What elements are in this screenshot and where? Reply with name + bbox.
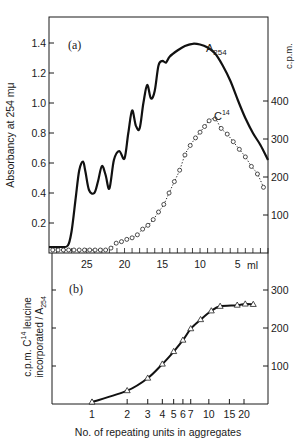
- y-tick-label-right-a: 300: [271, 133, 289, 145]
- c14-circle-marker: [207, 119, 211, 123]
- c14-circle-marker: [151, 218, 155, 222]
- c14-circle-marker: [198, 130, 202, 134]
- x-tick-label-b: 1: [89, 408, 95, 420]
- y-tick-label-right-a: 400: [271, 95, 289, 107]
- x-tick-label-b: 2: [124, 408, 130, 420]
- y-tick-label-right-b: 300: [271, 284, 289, 296]
- x-tick-label-b: 4: [159, 408, 165, 420]
- figure: 0.20.40.60.81.01.21.4 100200300400 25201…: [0, 0, 306, 447]
- x-tick-label-a: 20: [119, 258, 131, 270]
- y-tick-label-left-a: 1.2: [31, 67, 46, 79]
- ylabel-b2-sub: 254: [40, 296, 47, 308]
- x-tick-label-b: 20: [238, 408, 250, 420]
- x-tick-label-b: 10: [203, 408, 215, 420]
- c14-circle-marker: [178, 168, 182, 172]
- y-tick-label-left-a: 0.2: [31, 217, 46, 229]
- x-tick-label-a: 15: [156, 258, 168, 270]
- panel-label-a: (a): [68, 38, 81, 52]
- c14-circle-marker: [261, 185, 265, 189]
- c14-circle-marker: [77, 248, 81, 252]
- c14-circle-marker: [104, 248, 108, 252]
- c14-circle-marker: [243, 155, 247, 159]
- ylabel-b-sup: 14: [20, 332, 27, 340]
- x-axis-unit-label-a: ml: [247, 259, 258, 271]
- c14-markers: [51, 117, 266, 252]
- c14-circle-marker: [98, 248, 102, 252]
- x-tick-label-b: 5: [171, 408, 177, 420]
- x-tick-label-a: 10: [194, 258, 206, 270]
- c14-dotted-line: [53, 118, 264, 250]
- panel-label-b: (b): [69, 282, 83, 296]
- c14-circle-marker: [125, 237, 129, 241]
- c14-circle-marker: [146, 223, 150, 227]
- c14-circle-marker: [72, 248, 76, 252]
- c14-circle-marker: [225, 132, 229, 136]
- y-tick-label-left-a: 1.4: [31, 37, 46, 49]
- y-tick-label-left-a: 1.0: [31, 97, 46, 109]
- y-axis-label-right-a: c.p.m.: [283, 43, 294, 69]
- c14-circle-marker: [255, 172, 259, 176]
- c14-circle-marker: [82, 248, 86, 252]
- ylabel-b-prefix: c.p.m. C: [22, 340, 33, 377]
- c14-circle-marker: [162, 202, 166, 206]
- c14-circle-marker: [67, 248, 71, 252]
- y-axis-label-left-a: Absorbancy at 254 mμ: [4, 82, 16, 187]
- c14-circle-marker: [88, 248, 92, 252]
- y-tick-label-left-a: 0.6: [31, 157, 46, 169]
- x-axis-label-b: No. of repeating units in aggregates: [75, 426, 241, 438]
- y-tick-label-right-a: 200: [271, 171, 289, 183]
- c14-circle-marker: [109, 246, 113, 250]
- c14-circle-marker: [172, 180, 176, 184]
- c14-circle-marker: [141, 227, 145, 231]
- chart-a-frame: [49, 17, 268, 253]
- ylabel-b2-prefix: incorporated / A: [34, 307, 45, 377]
- c14-circle-marker: [157, 210, 161, 214]
- y-tick-label-right-b: 100: [271, 360, 289, 372]
- c14-circle-marker: [231, 140, 235, 144]
- y-tick-label-left-a: 0.4: [31, 187, 46, 199]
- triangle-markers: [89, 301, 256, 404]
- a254-series-label: A254: [206, 42, 227, 57]
- c14-circle-marker: [130, 236, 134, 240]
- c14-circle-marker: [249, 164, 253, 168]
- chart-a: 0.20.40.60.81.01.21.4 100200300400 25201…: [4, 17, 294, 271]
- chart-b-right-axis: 100200300: [52, 284, 289, 372]
- c14-circle-marker: [56, 248, 60, 252]
- c14-circle-marker: [188, 144, 192, 148]
- x-tick-label-a: 25: [81, 258, 93, 270]
- chart-b-bottom-axis: 1234567101520: [89, 399, 250, 420]
- c14-circle-marker: [167, 191, 171, 195]
- c14-circle-marker: [93, 248, 97, 252]
- x-tick-label-a: 5: [235, 258, 241, 270]
- c14-circle-marker: [114, 241, 118, 245]
- chart-a-left-axis: 0.20.40.60.81.01.21.4: [31, 37, 54, 229]
- c14-circle-marker: [135, 233, 139, 237]
- chart-b: 100200300 1234567101520 (b) c.p.m. C14 l…: [20, 253, 289, 438]
- c14-circle-marker: [51, 248, 55, 252]
- x-tick-label-b: 15: [224, 408, 236, 420]
- y-axis-label-b-line1: c.p.m. C14 leucine: [20, 297, 33, 377]
- ylabel-b-suffix: leucine: [22, 297, 33, 332]
- c14-circle-marker: [183, 153, 187, 157]
- x-tick-label-b: 6: [180, 408, 186, 420]
- c14-circle-marker: [61, 248, 65, 252]
- y-axis-label-b-line2: incorporated / A254: [34, 296, 47, 378]
- y-tick-label-right-b: 200: [271, 322, 289, 334]
- c14-circle-marker: [194, 136, 198, 140]
- c14-circle-marker: [237, 147, 241, 151]
- a254-line: [49, 44, 268, 248]
- y-tick-label-left-a: 0.8: [31, 127, 46, 139]
- x-tick-label-b: 3: [145, 408, 151, 420]
- c14-circle-marker: [219, 126, 223, 130]
- c14-circle-marker: [203, 125, 207, 129]
- y-tick-label-right-a: 100: [271, 209, 289, 221]
- c14-circle-marker: [119, 240, 123, 244]
- c14-series-label: C14: [214, 109, 230, 122]
- x-tick-label-b: 7: [188, 408, 194, 420]
